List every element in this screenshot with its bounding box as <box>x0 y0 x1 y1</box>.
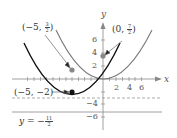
label-vertex-neg5-neg2: (−5, −2) <box>14 88 53 97</box>
point-black-neg5-neg2 <box>69 89 74 94</box>
x-tick-2: 2 <box>114 84 119 92</box>
x-axis <box>12 77 162 82</box>
x-tick-6: 6 <box>139 84 144 92</box>
y-tick-4: 4 <box>92 49 97 57</box>
label-point-neg5-3-2: (−5, 32) <box>22 22 53 33</box>
x-axis-label: x <box>164 75 169 84</box>
y-tick-neg6: −6 <box>86 113 98 121</box>
y-tick-neg4: −4 <box>86 100 98 108</box>
x-tick-4: 4 <box>127 84 132 92</box>
y-axis-label: y <box>101 10 106 19</box>
label-directrix: y = −112 <box>19 116 53 127</box>
y-tick-6: 6 <box>92 36 97 44</box>
point-gray-0-3.5 <box>100 53 105 58</box>
y-tick-2: 2 <box>92 62 97 70</box>
annotation-arrows <box>45 35 122 94</box>
label-point-0-7-2: (0, 72) <box>112 24 136 35</box>
